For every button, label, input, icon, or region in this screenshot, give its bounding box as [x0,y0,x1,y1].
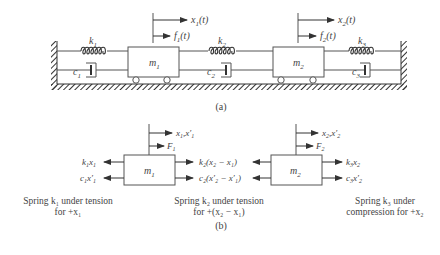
spring-k3-icon [349,47,373,54]
damper-c1-icon [57,63,128,77]
fbd-k2-force-right-label: k₂(x₂ − x₁) [199,157,237,167]
note-spring-k3-line1: Spring k₃ under [355,196,416,206]
damper-c3-label: c3 [352,66,360,80]
figure-b: m1 x1,x′1 F1 k1x1 c1x′1 k₂(x₂ − x₁) c₂(x… [23,124,423,232]
damper-c2-icon [179,63,273,77]
fbd-x1-label: x1,x′1 [175,128,194,139]
wheel-icon [310,77,316,83]
displacement-x1-label: x1(t) [190,14,209,28]
fbd-x2-label: x2,x′2 [321,128,340,139]
force-f2-label: f2(t) [320,30,336,44]
fbd-F2-label: F2 [315,141,325,152]
fbd-c3x2-label: c3x′2 [346,173,362,184]
damper-c1-label: c1 [73,66,81,80]
fbd-F1-label: F1 [166,141,176,152]
damper-c3-icon [324,63,401,77]
caption-a: (a) [215,101,226,113]
fbd-k1x1-label: k1x1 [82,157,96,168]
note-spring-k2-line2: for +(x₂ − x₁) [193,207,244,218]
wheel-icon [164,77,170,83]
displacement-x2-label: x2(t) [337,14,356,28]
force-f1-label: f1(t) [174,30,190,44]
fbd-c2-force-right-label: c₂(x′₂ − x′₁) [199,173,241,183]
figure-a: m1 m2 k1 k2 k3 c1 [51,13,407,113]
fbd-c1x1-label: c1x′1 [80,173,96,184]
wheel-icon [133,77,139,83]
ground-hatch [51,84,407,90]
two-mass-spring-damper-diagram: m1 m2 k1 k2 k3 c1 [0,0,440,255]
note-spring-k3-line2: compression for +x₂ [346,207,423,217]
note-spring-k1-line1: Spring k₁ under tension [23,196,113,206]
wheel-icon [278,77,284,83]
fbd-k3x2-label: k3x2 [346,157,360,168]
caption-b: (b) [215,220,227,232]
note-spring-k2-line1: Spring k₂ under tension [174,196,264,206]
note-spring-k1-line2: for +x₁ [55,207,82,217]
right-wall [401,41,407,90]
damper-c2-label: c2 [207,66,215,80]
left-wall [51,41,57,90]
